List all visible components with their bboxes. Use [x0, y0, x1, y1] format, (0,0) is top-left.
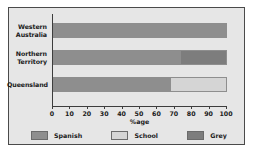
- y-tick-label-line: Western: [7, 23, 47, 30]
- x-tick-mark: [69, 106, 70, 109]
- y-tick-label: NorthernTerritory: [7, 50, 47, 65]
- y-tick-label-line: Northern: [7, 50, 47, 57]
- x-tick-mark: [191, 106, 192, 109]
- bar-segment-grey: [180, 50, 227, 65]
- x-tick-mark: [209, 106, 210, 109]
- bar-segment-spanish: [53, 23, 227, 38]
- x-tick-mark: [87, 106, 88, 109]
- chart-figure: 0102030405060708090100 WesternAustraliaN…: [8, 7, 245, 145]
- x-tick-label: 80: [182, 110, 200, 117]
- x-tick-label: 30: [95, 110, 113, 117]
- x-tick-label: 0: [43, 110, 61, 117]
- x-tick-mark: [104, 106, 105, 109]
- x-tick-mark: [174, 106, 175, 109]
- bar-segment-spanish: [53, 77, 170, 92]
- legend-label: Grey: [210, 132, 227, 139]
- y-tick-label: Queensland: [7, 81, 47, 88]
- bar-segment-school: [170, 77, 227, 92]
- legend-label: Spanish: [54, 132, 82, 139]
- x-tick-mark: [52, 106, 53, 109]
- x-tick-mark: [122, 106, 123, 109]
- plot-area: 0102030405060708090100: [52, 14, 227, 106]
- legend-swatch: [31, 131, 48, 140]
- x-tick-label: 100: [217, 110, 235, 117]
- x-tick-mark: [156, 106, 157, 109]
- y-tick-label-line: Australia: [7, 31, 47, 38]
- x-tick-label: 20: [78, 110, 96, 117]
- x-axis-label: %age: [52, 118, 227, 125]
- x-tick-label: 60: [147, 110, 165, 117]
- x-tick-mark: [226, 106, 227, 109]
- x-tick-label: 50: [130, 110, 148, 117]
- x-tick-label: 70: [165, 110, 183, 117]
- legend-item[interactable]: Grey: [187, 131, 227, 140]
- bar-segment-spanish: [53, 50, 180, 65]
- y-tick-label-line: Queensland: [7, 81, 47, 88]
- y-tick-label-line: Territory: [7, 58, 47, 65]
- legend-swatch: [111, 131, 128, 140]
- legend-label: School: [134, 132, 158, 139]
- legend-swatch: [187, 131, 204, 140]
- x-tick-label: 40: [113, 110, 131, 117]
- x-tick-mark: [139, 106, 140, 109]
- y-tick-label: WesternAustralia: [7, 23, 47, 38]
- legend-item[interactable]: School: [111, 131, 158, 140]
- chart-legend: SpanishSchoolGrey: [31, 129, 227, 141]
- legend-item[interactable]: Spanish: [31, 131, 82, 140]
- x-tick-label: 90: [200, 110, 218, 117]
- x-tick-label: 10: [60, 110, 78, 117]
